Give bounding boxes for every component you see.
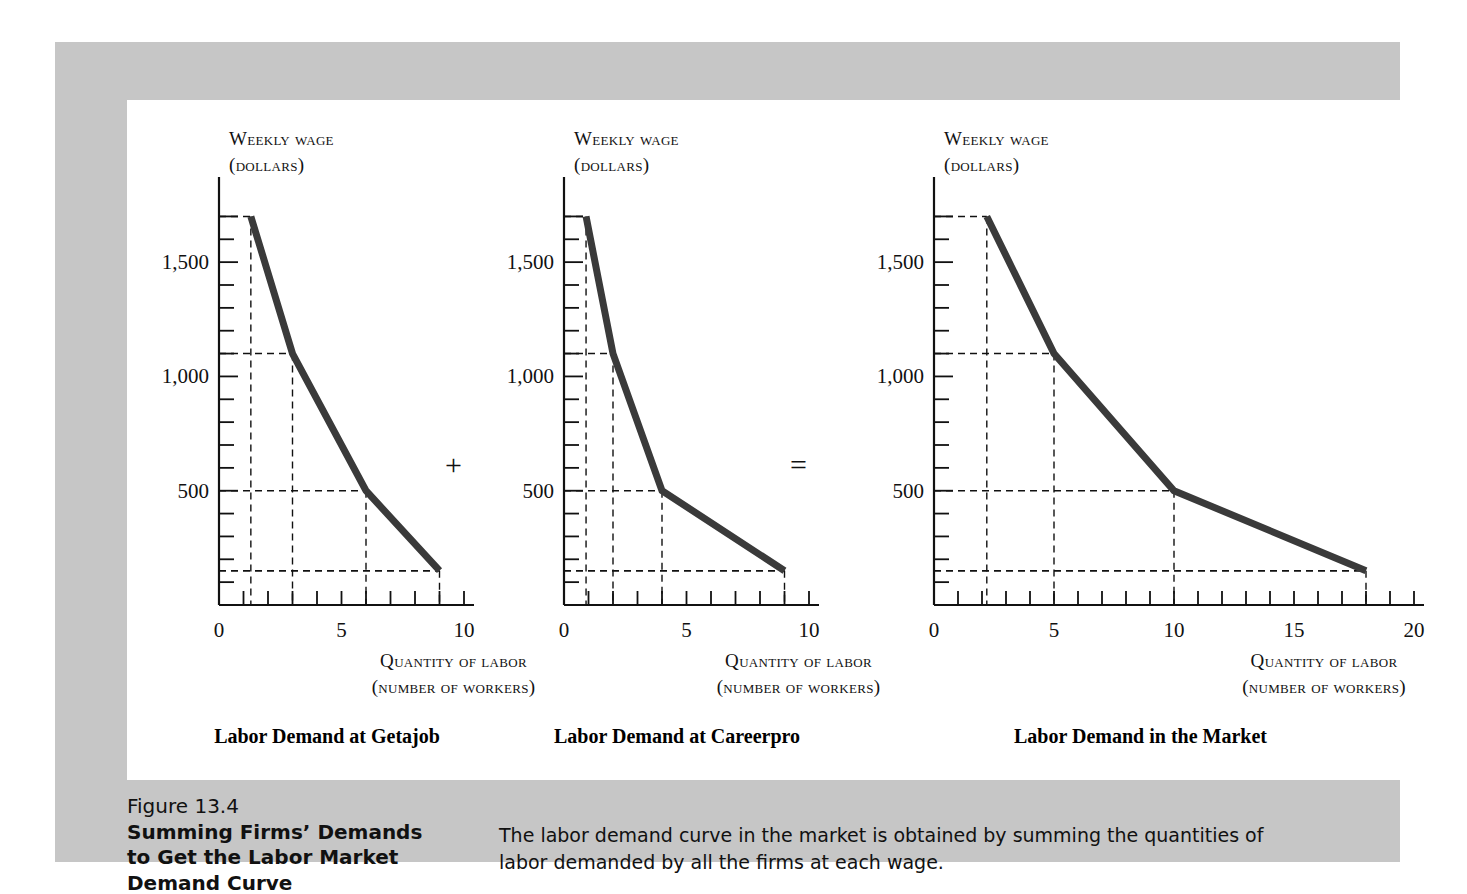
x-tick-label: 0 bbox=[929, 618, 940, 640]
figure-title-line-2: Demand Curve bbox=[127, 871, 497, 894]
chart-caption: Labor Demand in the Market bbox=[842, 725, 1439, 748]
y-tick-label: 500 bbox=[893, 479, 925, 503]
x-tick-label: 0 bbox=[214, 618, 225, 640]
x-tick-label: 5 bbox=[681, 618, 692, 640]
figure-gray-panel: Weekly wage (dollars) 5001,0001,5000510 … bbox=[55, 42, 1400, 862]
chart-labor-demand-market: Weekly wage (dollars) 5001,0001,50005101… bbox=[842, 100, 1439, 780]
x-tick-label: 10 bbox=[799, 618, 820, 640]
x-tick-label: 10 bbox=[1164, 618, 1185, 640]
plot-area: 5001,0001,5000510 bbox=[127, 100, 527, 640]
chart-caption: Labor Demand at Careerpro bbox=[482, 725, 872, 748]
x-axis-title: Quantity of labor bbox=[1251, 650, 1398, 672]
x-tick-label: 5 bbox=[1049, 618, 1060, 640]
y-tick-label: 500 bbox=[523, 479, 555, 503]
y-tick-label: 1,500 bbox=[507, 250, 554, 274]
chart-labor-demand-getajob: Weekly wage (dollars) 5001,0001,5000510 … bbox=[127, 100, 527, 780]
x-tick-label: 10 bbox=[454, 618, 475, 640]
x-tick-label: 15 bbox=[1284, 618, 1305, 640]
x-tick-label: 20 bbox=[1404, 618, 1425, 640]
chart-caption: Labor Demand at Getajob bbox=[127, 725, 527, 748]
y-tick-label: 1,500 bbox=[877, 250, 924, 274]
demand-curve bbox=[586, 216, 784, 570]
equals-operator: = bbox=[790, 450, 807, 480]
y-tick-label: 1,000 bbox=[507, 364, 554, 388]
charts-white-panel: Weekly wage (dollars) 5001,0001,5000510 … bbox=[127, 100, 1439, 780]
y-tick-label: 1,000 bbox=[877, 364, 924, 388]
demand-curve bbox=[251, 216, 440, 570]
figure-title-line-0: Summing Firms’ Demands bbox=[127, 820, 497, 846]
figure-caption-text: The labor demand curve in the market is … bbox=[499, 822, 1299, 875]
y-tick-label: 500 bbox=[178, 479, 210, 503]
figure-number: Figure 13.4 bbox=[127, 794, 497, 820]
figure-title-line-1: to Get the Labor Market bbox=[127, 845, 497, 871]
figure-title: Summing Firms’ Demandsto Get the Labor M… bbox=[127, 820, 497, 894]
figure-caption-heading: Figure 13.4 Summing Firms’ Demandsto Get… bbox=[127, 794, 497, 894]
y-tick-label: 1,000 bbox=[162, 364, 209, 388]
x-axis-units: (number of workers) bbox=[1242, 676, 1406, 698]
figure-container: Weekly wage (dollars) 5001,0001,5000510 … bbox=[0, 0, 1467, 894]
x-tick-label: 0 bbox=[559, 618, 570, 640]
chart-labor-demand-careerpro: Weekly wage (dollars) 5001,0001,5000510 … bbox=[482, 100, 872, 780]
x-tick-label: 5 bbox=[336, 618, 347, 640]
plus-operator: + bbox=[445, 450, 462, 480]
plot-area: 5001,0001,5000510 bbox=[482, 100, 872, 640]
figure-caption-block: Figure 13.4 Summing Firms’ Demandsto Get… bbox=[127, 794, 1439, 894]
y-tick-label: 1,500 bbox=[162, 250, 209, 274]
demand-curve bbox=[987, 216, 1366, 570]
plot-area: 5001,0001,50005101520 bbox=[842, 100, 1439, 640]
